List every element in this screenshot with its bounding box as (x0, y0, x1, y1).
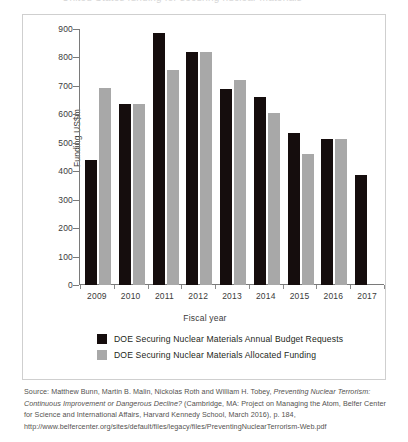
x-axis-tick-labels: 200920102011201220132014201520162017 (80, 291, 384, 311)
legend-item-allocated: DOE Securing Nuclear Materials Allocated… (23, 347, 387, 363)
bar-allocated-funding (234, 80, 246, 285)
bar-allocated-funding (268, 113, 280, 285)
x-tick-mark (249, 285, 250, 289)
y-tick-label: 500 (33, 138, 73, 148)
figure-root: United States funding for securing nucle… (0, 0, 408, 442)
y-tick-mark (73, 257, 79, 258)
x-tick-mark (316, 285, 317, 289)
bar-allocated-funding (200, 52, 212, 285)
bar-allocated-funding (99, 88, 111, 285)
bar-group (319, 15, 353, 285)
x-tick-mark (384, 285, 385, 289)
bar-group (353, 15, 387, 285)
bar-series-container (80, 15, 384, 285)
bar-group (184, 15, 218, 285)
x-tick-mark (181, 285, 182, 289)
x-tick-mark (80, 285, 81, 289)
source-note: Source: Matthew Bunn, Martin B. Malin, N… (24, 386, 390, 433)
legend-item-requests: DOE Securing Nuclear Materials Annual Bu… (23, 331, 387, 347)
legend-swatch-icon-requests (97, 334, 107, 344)
cropped-caption-strip: United States funding for securing nucle… (0, 0, 408, 13)
bar-budget-request (85, 160, 97, 285)
y-axis-tick-labels: 0100200300400500600700800900 (33, 15, 73, 315)
y-tick-label: 0 (33, 280, 73, 290)
chart-panel: Funding US$m 010020030040050060070080090… (22, 14, 386, 380)
y-tick-label: 400 (33, 166, 73, 176)
x-tick-mark (114, 285, 115, 289)
y-tick-label: 700 (33, 81, 73, 91)
bar-group (151, 15, 185, 285)
bar-allocated-funding (167, 70, 179, 285)
bar-budget-request (254, 97, 266, 285)
bar-budget-request (119, 104, 131, 285)
bar-group (117, 15, 151, 285)
y-tick-label: 600 (33, 109, 73, 119)
bar-budget-request (220, 89, 232, 285)
y-tick-mark (73, 228, 79, 229)
bar-allocated-funding (133, 104, 145, 285)
y-tick-label: 300 (33, 195, 73, 205)
y-tick-label: 800 (33, 52, 73, 62)
bar-budget-request (288, 133, 300, 285)
y-tick-mark (73, 29, 79, 30)
bar-budget-request (355, 175, 367, 285)
legend-swatch-icon-allocated (97, 350, 107, 360)
y-tick-mark (73, 57, 79, 58)
bar-group (218, 15, 252, 285)
y-tick-mark (73, 285, 79, 286)
y-tick-label: 900 (33, 24, 73, 34)
x-tick-mark (215, 285, 216, 289)
y-tick-label: 100 (33, 252, 73, 262)
x-tick-mark (283, 285, 284, 289)
legend-label-requests: DOE Securing Nuclear Materials Annual Bu… (114, 334, 343, 344)
bar-budget-request (321, 139, 333, 285)
bar-allocated-funding (335, 139, 347, 285)
x-tick-mark (350, 285, 351, 289)
y-tick-label: 200 (33, 223, 73, 233)
y-tick-mark (73, 200, 79, 201)
x-axis-title: Fiscal year (23, 313, 387, 323)
bar-group (286, 15, 320, 285)
bar-budget-request (186, 52, 198, 285)
cropped-caption-text: United States funding for securing nucle… (62, 0, 302, 3)
x-tick-mark (148, 285, 149, 289)
y-tick-mark (73, 114, 79, 115)
plot-area: Funding US$m 010020030040050060070080090… (23, 15, 387, 315)
y-tick-mark (73, 171, 79, 172)
bar-allocated-funding (302, 154, 314, 285)
bar-budget-request (153, 33, 165, 285)
y-tick-mark (73, 86, 79, 87)
chart-legend: DOE Securing Nuclear Materials Annual Bu… (23, 331, 387, 363)
bar-group (83, 15, 117, 285)
bar-group (252, 15, 286, 285)
y-tick-mark (73, 143, 79, 144)
x-tick-label: 2017 (344, 291, 390, 301)
legend-label-allocated: DOE Securing Nuclear Materials Allocated… (114, 350, 316, 360)
